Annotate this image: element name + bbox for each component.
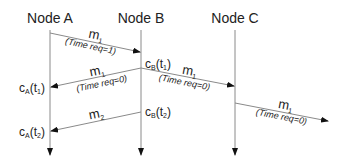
message-label-group: m2 — [87, 105, 105, 124]
message-label-group: m1 (Time req=0) — [72, 57, 128, 93]
message-label-group: m1 (Time req=0) — [255, 92, 311, 126]
clock-label-cb-t1: cB(t1) — [145, 57, 171, 71]
sequence-diagram: Node A Node B Node C m1 (Time req=1) m1 … — [0, 0, 343, 163]
node-c-label: Node C — [211, 10, 258, 26]
clock-label-ca-t1: cA(t1) — [19, 81, 45, 95]
clock-label-cb-t2: cB(t2) — [145, 105, 171, 119]
message-label-group: m1 (Time req=1) — [64, 21, 120, 56]
clock-label-ca-t2: cA(t2) — [19, 125, 45, 139]
node-a-label: Node A — [27, 10, 74, 26]
message-label: m2 — [87, 105, 105, 124]
node-b-label: Node B — [118, 10, 165, 26]
